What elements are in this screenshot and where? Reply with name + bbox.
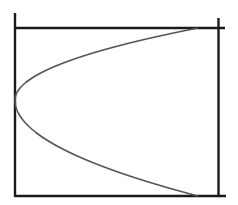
parabola-diagram <box>0 0 238 205</box>
background <box>0 0 238 205</box>
